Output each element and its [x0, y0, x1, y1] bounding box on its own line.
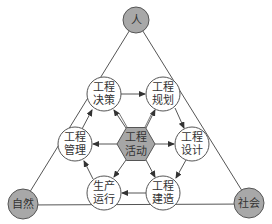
node-management-line1: 工程: [64, 131, 86, 144]
corner-society-label: 社会: [238, 196, 260, 210]
corner-person: 人: [123, 7, 149, 33]
engineering-activity-diagram: 人 自然 社会 工程 活动 工程 决策 工程 规划 工程 设计 工程 建造 生产…: [0, 0, 272, 224]
center-label-line2: 活动: [125, 145, 147, 158]
node-construction-line2: 建造: [152, 192, 174, 206]
node-operation-line2: 运行: [93, 193, 115, 206]
center-engineering-activity: 工程 活动: [117, 128, 155, 161]
outer-triangle: [23, 20, 249, 205]
center-label-line1: 工程: [125, 131, 147, 144]
node-decision-line2: 决策: [93, 93, 115, 107]
node-design-line2: 设计: [181, 144, 203, 157]
corner-person-label: 人: [131, 14, 142, 27]
node-operation-line1: 生产: [93, 179, 115, 193]
node-planning: 工程 规划: [146, 77, 180, 111]
node-planning-line1: 工程: [152, 81, 174, 94]
node-management-line2: 管理: [64, 143, 86, 157]
node-decision: 工程 决策: [87, 77, 121, 111]
node-design-line1: 工程: [181, 131, 203, 144]
node-construction: 工程 建造: [146, 176, 180, 210]
node-planning-line2: 规划: [152, 93, 174, 107]
node-design: 工程 设计: [175, 127, 209, 161]
corner-nature: 自然: [8, 189, 38, 219]
node-operation: 生产 运行: [87, 176, 121, 210]
node-management: 工程 管理: [58, 127, 92, 161]
corner-society: 社会: [234, 188, 264, 218]
corner-nature-label: 自然: [12, 197, 34, 211]
node-decision-line1: 工程: [93, 81, 115, 94]
node-construction-line1: 工程: [152, 180, 174, 193]
